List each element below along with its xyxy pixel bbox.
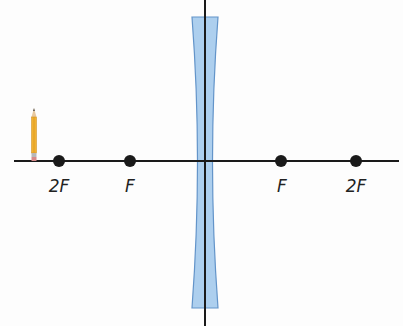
label-2f-left: 2F: [49, 176, 70, 196]
lens-diagram: 2F F F 2F: [0, 0, 403, 326]
pencil-object: [32, 108, 37, 161]
point-2f-left: [53, 155, 65, 167]
label-f-right: F: [277, 176, 287, 196]
label-2f-right: 2F: [346, 176, 367, 196]
point-2f-right: [350, 155, 362, 167]
point-f-left: [124, 155, 136, 167]
label-f-left: F: [125, 176, 135, 196]
point-f-right: [275, 155, 287, 167]
